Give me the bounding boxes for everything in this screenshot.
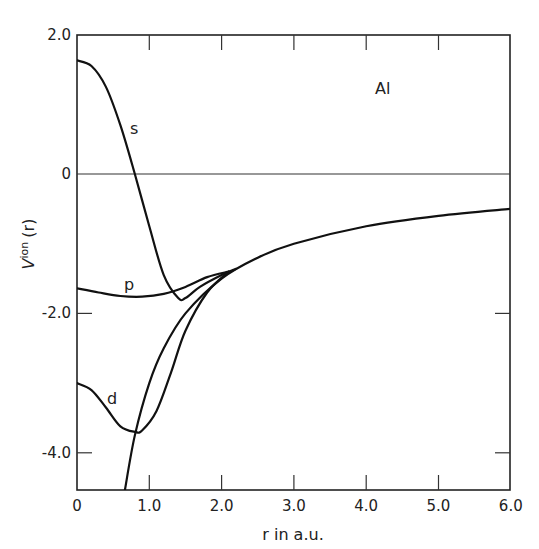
element-annotation: Al — [375, 79, 390, 98]
x-tick-label: 5.0 — [427, 497, 451, 515]
x-tick-label: 1.0 — [137, 497, 161, 515]
y-tick-label: 2.0 — [47, 26, 71, 44]
x-axis-label: r in a.u. — [262, 525, 323, 544]
curve-s — [77, 60, 236, 300]
curve-label-d: d — [107, 389, 117, 408]
axes — [77, 35, 510, 490]
y-tick-label: -2.0 — [42, 304, 71, 322]
y-axis-label: Vion(r) — [18, 219, 38, 270]
x-tick-label: 4.0 — [354, 497, 378, 515]
pseudopotential-chart: 01.02.03.04.05.06.02.00-2.0-4.0spdAlr in… — [0, 0, 539, 549]
curve-label-p: p — [124, 275, 134, 294]
x-tick-label: 2.0 — [210, 497, 234, 515]
x-tick-label: 3.0 — [282, 497, 306, 515]
x-tick-label: 6.0 — [499, 497, 523, 515]
labels: 01.02.03.04.05.06.02.00-2.0-4.0spdAlr in… — [18, 26, 523, 544]
curve-coulomb — [125, 209, 511, 491]
plot-frame — [77, 35, 510, 490]
curves — [77, 60, 511, 491]
y-tick-label: 0 — [61, 165, 71, 183]
curve-label-s: s — [130, 119, 138, 138]
y-tick-label: -4.0 — [42, 444, 71, 462]
x-tick-label: 0 — [72, 497, 82, 515]
